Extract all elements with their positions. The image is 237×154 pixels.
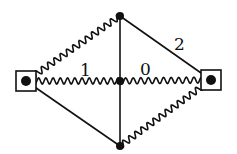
vertex-right <box>206 75 216 85</box>
edge-label-2: 2 <box>174 34 185 54</box>
edge-bottom-right <box>120 79 211 148</box>
edge-label-0: 0 <box>140 59 151 79</box>
vertex-top <box>116 12 124 20</box>
edge-top-right <box>120 16 211 80</box>
edge-left-top <box>26 15 120 83</box>
edge-label-1: 1 <box>80 60 91 80</box>
vertex-left <box>21 76 31 86</box>
vertex-bottom <box>116 142 124 150</box>
edge-left-bottom <box>26 81 120 146</box>
diagram-canvas: 1 0 2 <box>0 0 237 154</box>
graph-svg: 1 0 2 <box>0 0 237 154</box>
vertex-center <box>116 77 124 85</box>
edge-center-right <box>120 77 211 84</box>
edge-left-center <box>26 78 120 84</box>
